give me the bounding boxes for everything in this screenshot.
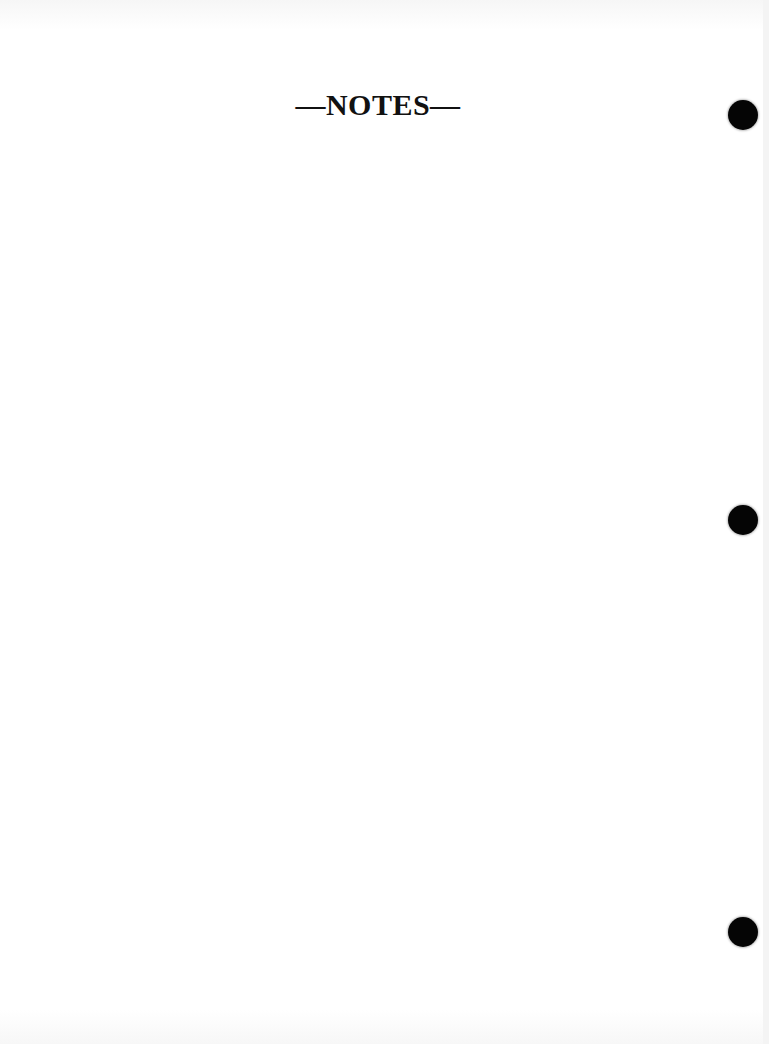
punch-hole-top-icon <box>728 100 758 130</box>
page-edge <box>763 0 769 1044</box>
punch-hole-bottom-icon <box>728 917 758 947</box>
notes-page: —NOTES— <box>0 0 769 1044</box>
punch-hole-middle-icon <box>728 505 758 535</box>
page-title: —NOTES— <box>0 88 756 122</box>
